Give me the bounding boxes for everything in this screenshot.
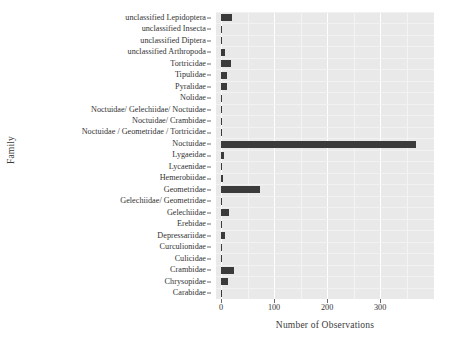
y-axis-tick: Depressariidae [18,230,211,241]
y-axis-tick-mark [207,178,211,179]
y-axis-tick-mark [207,235,211,236]
y-axis-tick: Culicidae [18,253,211,264]
bar-row [216,69,434,80]
y-axis-tick-label: Noctuidae/ Crambidae [132,117,211,125]
y-axis-tick: Gelechiidae [18,207,211,218]
y-axis-tick-mark [207,293,211,294]
bar-row [216,92,434,103]
bar-row [216,253,434,264]
x-axis-tick-mark [221,299,222,303]
y-axis-tick-mark [207,132,211,133]
bar [221,49,225,56]
y-axis-tick: unclassified Arthropoda [18,46,211,57]
y-axis-tick: Hemerobiidae [18,173,211,184]
bar [221,278,228,285]
x-axis-tick-label: 100 [268,303,280,312]
x-axis-tick-label: 200 [321,303,333,312]
x-axis-tick-mark [274,299,275,303]
bar [221,244,222,251]
y-axis-tick-mark [207,40,211,41]
y-axis-tick-mark [207,190,211,191]
y-axis-tick-mark [207,75,211,76]
y-axis-tick: Carabidae [18,288,211,299]
y-axis-tick-label: Hemerobiidae [160,174,211,182]
y-axis-tick: Chrysopidae [18,276,211,287]
y-axis-tick: Nolidae [18,92,211,103]
bar-row [216,35,434,46]
y-axis-tick-mark [207,29,211,30]
bar-row [216,127,434,138]
bar [221,221,222,228]
x-axis-tick-labels: 0100200300 [216,303,434,317]
y-axis-tick-mark [207,52,211,53]
y-axis-tick: Noctuidae [18,138,211,149]
bar-row [216,115,434,126]
y-axis-tick-label: unclassified Lepidoptera [125,14,211,22]
y-axis-tick-label: Curculionidae [160,243,211,251]
bar-row [216,23,434,34]
bar [221,83,227,90]
bar-row [216,150,434,161]
bar-row [216,242,434,253]
y-axis-tick-label: Chrysopidae [165,278,211,286]
x-axis-title: Number of Observations [216,320,434,330]
y-axis-tick-mark [207,201,211,202]
bar [221,72,227,79]
bar [221,14,232,21]
y-axis-tick: unclassified Diptera [18,35,211,46]
bar [221,163,222,170]
y-axis-tick: Pyralidae [18,81,211,92]
bar-row [216,219,434,230]
y-axis-tick-mark [207,155,211,156]
y-axis-tick-label: Noctuidae / Geometridae / Tortricidae [82,128,211,136]
y-axis-tick-label: Gelechiidae [167,209,211,217]
y-axis-tick-label: Gelechiidae/ Geometridae [120,197,211,205]
y-axis-tick-mark [207,281,211,282]
bar [221,37,222,44]
bar [221,129,222,136]
bar-row [216,138,434,149]
y-axis-tick: Erebidae [18,219,211,230]
bar [221,232,225,239]
y-axis-tick: Lygaeidae [18,150,211,161]
y-axis-tick-mark [207,17,211,18]
bar [221,186,260,193]
bar-row [216,161,434,172]
y-axis-tick: Gelechiidae/ Geometridae [18,196,211,207]
x-axis-tick-label: 0 [219,303,223,312]
y-axis-tick-label: Carabidae [173,289,211,297]
bar [221,60,231,67]
y-axis-tick-mark [207,86,211,87]
y-axis-tick-label: Crambidae [170,266,211,274]
y-axis-tick-label: Tortricidae [170,60,211,68]
y-axis-tick-label: Lycaenidae [169,163,211,171]
x-axis-tick-mark [380,299,381,303]
y-axis-tick: Noctuidae/ Crambidae [18,115,211,126]
y-axis-tick-mark [207,109,211,110]
y-axis-tick: Tipulidae [18,69,211,80]
bar-row [216,196,434,207]
y-axis-tick-label: Geometridae [164,186,211,194]
bar-row [216,288,434,299]
bar [221,118,222,125]
bar-row [216,104,434,115]
y-axis-tick-mark [207,247,211,248]
y-axis-tick: unclassified Lepidoptera [18,12,211,23]
y-axis-tick-mark [207,270,211,271]
y-axis-tick-mark [207,98,211,99]
y-axis-tick-label: unclassified Diptera [140,37,211,45]
y-axis-tick-mark [207,144,211,145]
bar-row [216,230,434,241]
bar [221,198,222,205]
bar [221,175,223,182]
bar-row [216,276,434,287]
y-axis-title-label: Family [6,136,16,164]
y-axis-tick-label: unclassified Insecta [142,25,211,33]
bar-row [216,46,434,57]
bar [221,141,416,148]
bar-series [216,12,434,299]
bar [221,26,222,33]
bar-row [216,184,434,195]
y-axis-tick: Noctuidae / Geometridae / Tortricidae [18,127,211,138]
y-axis-tick: Curculionidae [18,242,211,253]
